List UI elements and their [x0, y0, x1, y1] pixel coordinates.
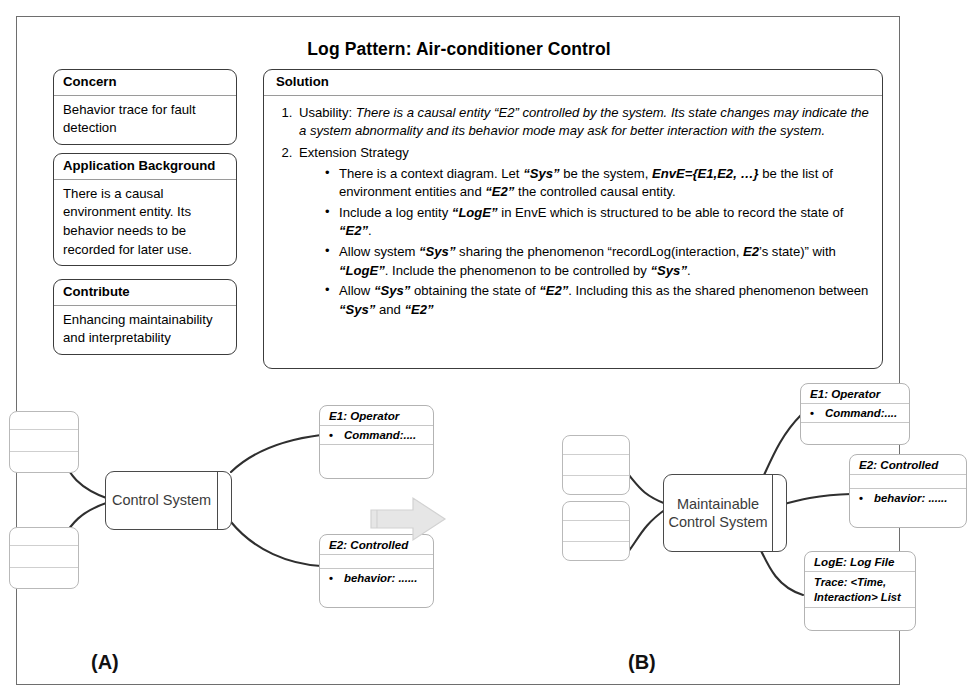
card-contribute: Contribute Enhancing maintainability and… — [53, 279, 237, 355]
diagram-b-node-e2-header: E2: Controlled — [850, 455, 966, 475]
diagram-b-node-loge: LogE: Log File Trace: <Time, Interaction… — [804, 551, 916, 631]
diagram-a-machine-label: Control System — [106, 472, 217, 529]
connector-b-blank2 — [628, 509, 666, 552]
diagram-b-node-loge-row-0: Trace: <Time, Interaction> List — [805, 572, 915, 608]
card-concern-body: Behavior trace for fault detection — [54, 96, 236, 144]
diagram-a-node-e1-header: E1: Operator — [320, 406, 433, 426]
diagram-b-node-e1-row-0: Command:.... — [801, 404, 909, 423]
diagram-a-node-e2: E2: Controlled behavior: ...... — [319, 534, 434, 608]
diagram-a-node-e1: E1: Operator Command:.... — [319, 405, 434, 479]
diagram-b-blank-box-2 — [562, 501, 630, 561]
panel-label-b: (B) — [628, 651, 656, 674]
connector-a-e2 — [231, 522, 321, 566]
transformation-arrow — [369, 495, 447, 543]
solution-bullet-context-diagram: There is a context diagram. Let “Sys” be… — [325, 165, 870, 202]
solution-bullet-share-phenomenon: Allow system “Sys” sharing the phenomeno… — [325, 243, 870, 280]
diagram-a-blank-box-1 — [9, 411, 79, 473]
diagram-b-node-e2-row-0: behavior: ...... — [850, 489, 966, 507]
diagram-b-machine-stripe — [772, 475, 786, 551]
diagram-b-machine-label: Maintainable Control System — [664, 475, 772, 551]
card-application-background-header: Application Background — [54, 154, 236, 180]
diagram-b-node-e1-header: E1: Operator — [801, 384, 909, 404]
diagram-b-node-loge-header: LogE: Log File — [805, 552, 915, 572]
solution-item-list: Usability: There is a causal entity “E2”… — [276, 104, 870, 320]
figure-frame: Log Pattern: Air-conditioner Control Con… — [16, 16, 900, 685]
card-concern: Concern Behavior trace for fault detecti… — [53, 69, 237, 145]
card-solution: Solution Usability: There is a causal en… — [263, 69, 883, 369]
diagram-b-node-e2: E2: Controlled behavior: ...... — [849, 454, 967, 528]
card-concern-header: Concern — [54, 70, 236, 96]
diagram-b-blank-box-1 — [562, 435, 630, 495]
card-application-background: Application Background There is a causal… — [53, 153, 237, 266]
card-solution-header: Solution — [264, 70, 882, 96]
diagram-b-node-e1: E1: Operator Command:.... — [800, 383, 910, 445]
solution-item-extension-strategy-lead: Extension Strategy — [299, 145, 409, 160]
diagram-a-machine-stripe — [217, 472, 231, 529]
diagram-a-blank-box-2 — [9, 527, 79, 589]
diagram-b-machine-maintainable-control-system: Maintainable Control System — [663, 474, 787, 552]
card-solution-body: Usability: There is a causal entity “E2”… — [264, 96, 882, 320]
diagram-a-node-e1-row-0: Command:.... — [320, 426, 433, 445]
card-contribute-body: Enhancing maintainability and interpreta… — [54, 306, 236, 354]
card-application-background-body: There is a causal environment entity. It… — [54, 180, 236, 266]
diagram-a-machine-control-system: Control System — [105, 471, 232, 530]
solution-item-extension-strategy: Extension Strategy There is a context di… — [296, 144, 870, 319]
page-title: Log Pattern: Air-conditioner Control — [17, 39, 901, 60]
connector-b-blank1 — [628, 474, 666, 504]
solution-bullet-obtain-state: Allow “Sys” obtaining the state of “E2”.… — [325, 282, 870, 319]
solution-item-usability-lead: Usability: — [299, 105, 352, 120]
panel-label-a: (A) — [91, 651, 119, 674]
diagram-a-node-e2-row-0: behavior: ...... — [320, 569, 433, 587]
solution-item-usability: Usability: There is a causal entity “E2”… — [296, 104, 870, 141]
solution-bullet-include-log-entity: Include a log entity “LogE” in EnvE whic… — [325, 204, 870, 241]
connector-a-e1 — [231, 435, 321, 472]
solution-sub-bullet-list: There is a context diagram. Let “Sys” be… — [299, 165, 870, 320]
card-contribute-header: Contribute — [54, 280, 236, 306]
solution-item-usability-text: There is a causal entity “E2” controlled… — [299, 105, 869, 139]
